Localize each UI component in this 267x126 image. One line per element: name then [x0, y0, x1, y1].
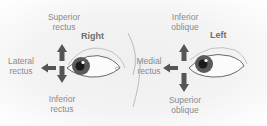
label-line: Lateral: [4, 56, 38, 66]
right-eye-illustration: [67, 48, 125, 77]
label-line: rectus: [4, 66, 38, 76]
label-inferior-oblique: Inferior oblique: [168, 12, 202, 32]
label-line: rectus: [134, 66, 164, 76]
label-line: Superior: [167, 95, 203, 105]
label-inferior-rectus: Inferior rectus: [45, 94, 79, 114]
label-line: Inferior: [45, 94, 79, 104]
arrow-down-icon: [179, 73, 189, 92]
label-line: oblique: [167, 105, 203, 115]
label-line: oblique: [168, 22, 202, 32]
arrow-up-icon: [179, 44, 189, 61]
side-label-left: Left: [210, 30, 227, 40]
label-lateral-rectus: Lateral rectus: [4, 56, 38, 76]
label-superior-rectus: Superior rectus: [47, 12, 81, 32]
right-eye-arrows: [41, 44, 67, 83]
extraocular-muscles-diagram: Superior rectus Right Lateral rectus Inf…: [0, 0, 267, 126]
arrow-left-icon: [163, 64, 178, 73]
label-line: Medial: [134, 56, 164, 66]
label-line: Inferior: [168, 12, 202, 22]
label-line: Superior: [47, 12, 81, 22]
side-label-right: Right: [81, 31, 104, 41]
left-eye-illustration: [189, 48, 247, 78]
label-medial-rectus: Medial rectus: [134, 56, 164, 76]
label-superior-oblique: Superior oblique: [167, 95, 203, 115]
label-line: rectus: [45, 104, 79, 114]
arrow-up-icon: [57, 44, 67, 61]
left-eye-arrows: [163, 44, 189, 92]
label-line: rectus: [47, 22, 81, 32]
arrow-down-icon: [57, 66, 67, 83]
arrow-left-icon: [41, 64, 56, 73]
